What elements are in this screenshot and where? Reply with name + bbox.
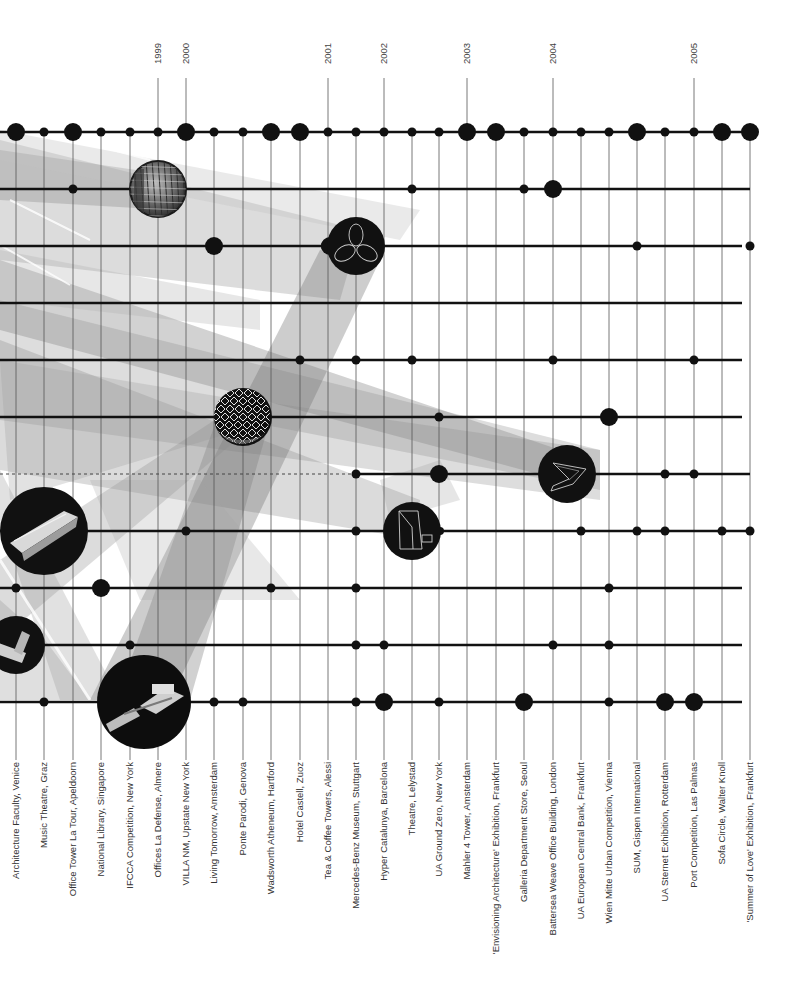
year-label: 2000 — [180, 43, 191, 64]
project-dot-small — [690, 470, 699, 479]
project-dot-small — [352, 128, 361, 137]
project-label: Theatre, Lelystad — [406, 762, 417, 835]
project-dot-large — [628, 123, 646, 141]
project-dot-small — [435, 413, 444, 422]
project-dot-small — [380, 641, 389, 650]
year-label: 2005 — [688, 43, 699, 64]
project-dot-small — [577, 527, 586, 536]
project-dot-small — [661, 128, 670, 137]
project-dot-large — [7, 123, 25, 141]
project-dot-large — [515, 693, 533, 711]
project-dot-small — [435, 128, 444, 137]
project-dot-small — [352, 527, 361, 536]
project-label: Living Tomorrow, Amsterdam — [208, 762, 219, 884]
project-dot-small — [690, 356, 699, 365]
project-dot-small — [605, 584, 614, 593]
project-dot-large — [600, 408, 618, 426]
project-label: Hotel Castell, Zuoz — [294, 762, 305, 843]
year-label: 2001 — [322, 43, 333, 64]
project-dot-small — [408, 356, 417, 365]
project-dot-large — [205, 237, 223, 255]
project-labels: Architecture Faculty, VeniceMusic Theatr… — [10, 761, 755, 954]
year-markers: 1999200020012002200320042005 — [152, 43, 699, 132]
project-dot-small — [661, 527, 670, 536]
project-image-bar-model — [0, 487, 88, 575]
project-dot-large — [262, 123, 280, 141]
project-dot-small — [352, 698, 361, 707]
project-dot-small — [605, 128, 614, 137]
project-label: National Library, Singapore — [95, 762, 106, 876]
project-dot-large — [375, 693, 393, 711]
project-label: Hyper Catalunya, Barcelona — [378, 761, 389, 881]
project-dot-small — [126, 128, 135, 137]
project-dot-large — [487, 123, 505, 141]
project-label: Ponte Parodi, Genova — [237, 761, 248, 855]
project-dot-small — [549, 356, 558, 365]
year-label: 2003 — [461, 43, 472, 64]
project-dot-large — [458, 123, 476, 141]
project-dot-small — [267, 584, 276, 593]
project-dot-small — [633, 242, 642, 251]
project-dot-large — [544, 180, 562, 198]
project-dot-large — [430, 465, 448, 483]
project-image-chevron — [538, 445, 596, 503]
project-dot-small — [97, 128, 106, 137]
project-dot-small — [210, 698, 219, 707]
project-label: Mahler 4 Tower, Amsterdam — [461, 762, 472, 880]
timeline-diagram: 1999200020012002200320042005 Architectur… — [0, 0, 798, 986]
diagram-canvas: 1999200020012002200320042005 Architectur… — [0, 0, 798, 986]
project-dot-small — [605, 698, 614, 707]
project-dot-small — [718, 527, 727, 536]
project-label: Wadsworth Atheneum, Hartford — [265, 762, 276, 894]
project-label: Wien Mitte Urban Competition, Vienna — [603, 761, 614, 923]
project-dot-large — [741, 123, 759, 141]
project-image-model-large — [97, 655, 191, 749]
project-dot-small — [549, 128, 558, 137]
project-dot-small — [408, 185, 417, 194]
project-label: Mercedes-Benz Museum, Stuttgart — [350, 762, 361, 909]
project-dot-small — [69, 185, 78, 194]
project-dot-small — [520, 128, 529, 137]
project-dot-small — [746, 242, 755, 251]
project-dot-small — [182, 527, 191, 536]
project-label: Battersea Weave Office Building, London — [547, 762, 558, 935]
project-label: VILLA NM, Upstate New York — [180, 762, 191, 886]
project-dot-large — [685, 693, 703, 711]
project-label: UA European Central Bank, Frankfurt — [575, 762, 586, 920]
project-dot-small — [661, 470, 670, 479]
project-dot-large — [656, 693, 674, 711]
project-dot-small — [577, 128, 586, 137]
project-dot-small — [239, 698, 248, 707]
project-dot-small — [210, 128, 219, 137]
project-dot-small — [296, 356, 305, 365]
project-dot-small — [352, 641, 361, 650]
project-label: 'Envisioning Architecture' Exhibition, F… — [490, 762, 501, 954]
project-dot-small — [408, 128, 417, 137]
project-label: Port Competition, Las Palmas — [688, 762, 699, 888]
project-label: Offices La Defense, Almere — [152, 762, 163, 877]
project-label: Galleria Department Store, Seoul — [518, 762, 529, 902]
project-dot-small — [352, 356, 361, 365]
year-label: 2004 — [547, 43, 558, 64]
project-label: Tea & Coffee Towers, Alessi — [322, 762, 333, 879]
project-dot-large — [291, 123, 309, 141]
project-dot-small — [40, 128, 49, 137]
project-dot-small — [352, 470, 361, 479]
project-label: Sofa Circle, Walter Knoll — [716, 762, 727, 865]
year-label: 2002 — [378, 43, 389, 64]
project-label: SUM, Gispen International — [631, 762, 642, 873]
project-dot-small — [239, 128, 248, 137]
project-dot-small — [126, 641, 135, 650]
project-dot-small — [549, 641, 558, 650]
year-label: 1999 — [152, 43, 163, 64]
project-dot-small — [154, 128, 163, 137]
project-dot-large — [713, 123, 731, 141]
project-dot-small — [352, 584, 361, 593]
project-dot-large — [64, 123, 82, 141]
project-dot-small — [380, 128, 389, 137]
project-label: UA Ground Zero, New York — [433, 762, 444, 877]
project-label: Architecture Faculty, Venice — [10, 762, 21, 879]
project-dot-large — [177, 123, 195, 141]
project-label: UA Sternet Exhibition, Rotterdam — [659, 762, 670, 901]
project-dot-large — [92, 579, 110, 597]
